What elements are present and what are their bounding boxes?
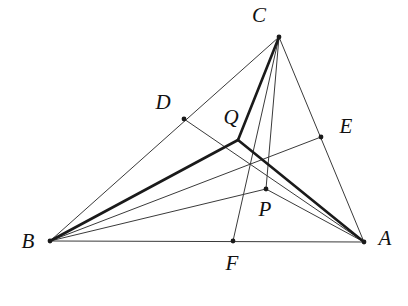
steiner-QC xyxy=(238,37,279,140)
point-label-e: E xyxy=(339,114,353,138)
point-label-p: P xyxy=(258,197,272,221)
segment-CP xyxy=(266,37,279,189)
geometry-figure: ABCDEFPQ xyxy=(0,0,408,306)
point-dot-p xyxy=(264,187,269,192)
point-label-c: C xyxy=(252,3,267,27)
steiner-QB xyxy=(50,140,238,241)
side-CA xyxy=(279,37,364,242)
geometry-canvas: ABCDEFPQ xyxy=(0,0,408,306)
side-BC xyxy=(50,37,279,241)
point-label-f: F xyxy=(225,251,239,275)
point-label-a: A xyxy=(377,226,392,250)
point-dot-b xyxy=(48,239,53,244)
segment-BP xyxy=(50,189,266,241)
cevian-CF xyxy=(233,37,279,241)
segments-layer xyxy=(50,37,364,242)
point-dot-a xyxy=(362,240,367,245)
point-label-d: D xyxy=(154,90,170,114)
side-BA xyxy=(50,241,364,242)
point-dot-d xyxy=(182,117,187,122)
point-label-q: Q xyxy=(223,105,238,129)
cevian-AD xyxy=(184,119,364,242)
point-dot-f xyxy=(231,239,236,244)
point-dot-e xyxy=(319,135,324,140)
point-dot-c xyxy=(277,35,282,40)
segment-AP xyxy=(266,189,364,242)
cevian-BE xyxy=(50,137,321,241)
vertex-dots-layer xyxy=(48,35,367,245)
point-label-b: B xyxy=(22,229,35,253)
